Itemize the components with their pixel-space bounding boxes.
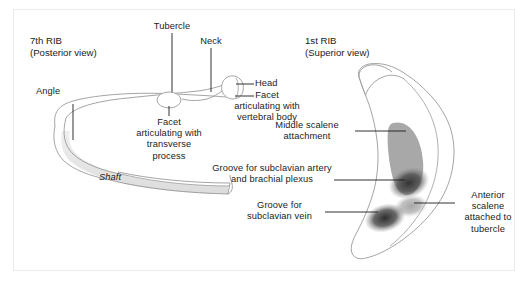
label-middle-scalene-attachment: Middle scalene attachment <box>262 120 352 142</box>
label-facet-vertebral-body: Facet articulating with vertebral body <box>226 90 308 124</box>
first-rib-title: 1st RIB (Superior view) <box>305 35 370 58</box>
seventh-rib-title: 7th RIB (Posterior view) <box>30 35 97 58</box>
label-shaft: Shaft <box>99 172 121 183</box>
first-rib-drawing <box>351 63 454 258</box>
label-groove-subclavian-artery: Groove for subclavian artery and brachia… <box>212 163 332 185</box>
label-neck: Neck <box>190 36 232 47</box>
label-head: Head <box>255 78 278 89</box>
seventh-rib-top-contour <box>66 82 230 118</box>
seventh-rib-tubercle-facet <box>157 92 181 108</box>
label-facet-transverse-process: Facet articulating with transverse proce… <box>123 117 215 162</box>
label-angle: Angle <box>36 86 60 97</box>
label-tubercle: Tubercle <box>142 21 202 32</box>
label-groove-subclavian-vein: Groove for subclavian vein <box>237 200 322 222</box>
rib-anatomy-figure: 7th RIB (Posterior view) Angle Tubercle … <box>0 0 529 294</box>
label-anterior-scalene-tubercle: Anterior scalene attached to tubercle <box>455 190 521 235</box>
